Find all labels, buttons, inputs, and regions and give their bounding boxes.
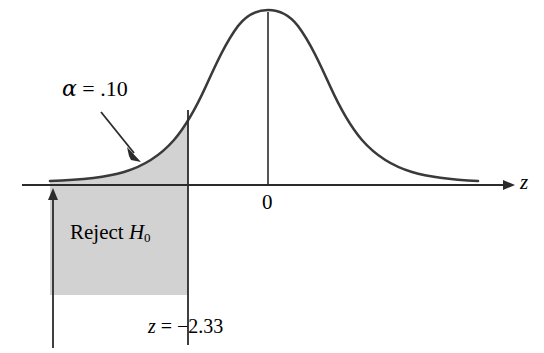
null-hypothesis-subscript: 0 [144, 230, 151, 245]
origin-label: 0 [262, 192, 273, 213]
reject-word: Reject [70, 220, 129, 244]
z-axis-arrowhead [503, 180, 515, 190]
reject-region-label: Reject H0 [70, 222, 151, 243]
alpha-leader-arrowhead [127, 147, 141, 162]
distribution-chart-svg [0, 0, 544, 353]
alpha-equals: = [77, 76, 100, 101]
critical-value-number: −2.33 [177, 315, 223, 337]
alpha-symbol: α [62, 76, 77, 101]
critical-value-label: z = −2.33 [148, 316, 223, 336]
z-axis-label: z [520, 172, 528, 193]
null-hypothesis-symbol: H [129, 220, 144, 244]
critical-value-variable: z [148, 315, 156, 337]
critical-value-equals: = [156, 315, 177, 337]
normal-distribution-figure: α = .10 Reject H0 0 z = −2.33 z [0, 0, 544, 353]
alpha-leader-line [101, 112, 134, 153]
alpha-label: α = .10 [62, 78, 128, 100]
alpha-value: .10 [100, 76, 128, 101]
